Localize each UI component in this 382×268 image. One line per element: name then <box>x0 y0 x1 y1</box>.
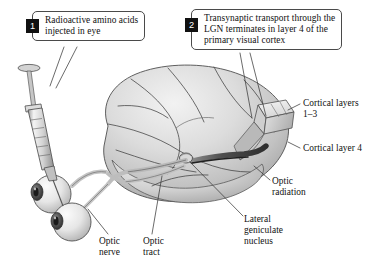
label-optic-nerve: Optic nerve <box>99 236 120 258</box>
callout-1-text: Radioactive amino acids injected in eye <box>45 15 138 36</box>
figure-canvas: 1 Radioactive amino acids injected in ey… <box>0 0 382 268</box>
callout-2-text: Transynaptic transport through the LGN t… <box>204 13 335 45</box>
callout-radioactive-injection: 1 Radioactive amino acids injected in ey… <box>32 11 145 41</box>
syringe-plunger-disc <box>18 64 40 71</box>
callout-transynaptic-transport: 2 Transynaptic transport through the LGN… <box>191 9 342 50</box>
left-eye-highlight <box>34 188 36 191</box>
callout-2-number-badge: 2 <box>185 18 198 32</box>
leader-cortical-layer-4 <box>288 142 300 148</box>
right-eye-highlight <box>54 217 56 220</box>
syringe-barrel <box>28 108 54 170</box>
label-optic-radiation: Optic radiation <box>272 176 306 198</box>
label-optic-tract: Optic tract <box>143 236 164 258</box>
leader-callout-1a <box>50 47 64 86</box>
label-cortical-layer-4: Cortical layer 4 <box>303 143 362 154</box>
label-lateral-geniculate-nucleus: Lateral geniculate nucleus <box>244 214 283 248</box>
syringe-plunger-rod <box>27 71 36 109</box>
label-cortical-layers-1-3: Cortical layers 1–3 <box>303 98 359 120</box>
eyes-group <box>31 175 91 241</box>
callout-1-number-badge: 1 <box>26 19 39 33</box>
leader-callout-1b <box>56 47 77 88</box>
